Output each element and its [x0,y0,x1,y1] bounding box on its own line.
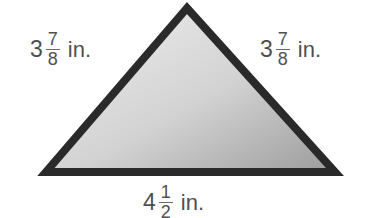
right-side-numerator: 7 [276,31,290,50]
base-numerator: 1 [159,184,173,203]
left-side-denominator: 8 [46,50,60,68]
left-side-fraction: 7 8 [46,31,60,68]
left-side-label: 3 7 8 in. [30,31,91,68]
left-side-unit: in. [68,37,91,63]
base-label: 4 1 2 in. [143,184,204,218]
right-side-fraction: 7 8 [276,31,290,68]
left-side-whole: 3 [30,36,43,63]
base-whole: 4 [143,189,156,216]
base-denominator: 2 [159,203,173,218]
right-side-whole: 3 [260,36,273,63]
base-unit: in. [181,190,204,216]
triangle-diagram: 3 7 8 in. 3 7 8 in. 4 1 2 in. [0,0,368,218]
left-side-numerator: 7 [46,31,60,50]
right-side-denominator: 8 [276,50,290,68]
right-side-label: 3 7 8 in. [260,31,321,68]
base-fraction: 1 2 [159,184,173,218]
right-side-unit: in. [298,37,321,63]
